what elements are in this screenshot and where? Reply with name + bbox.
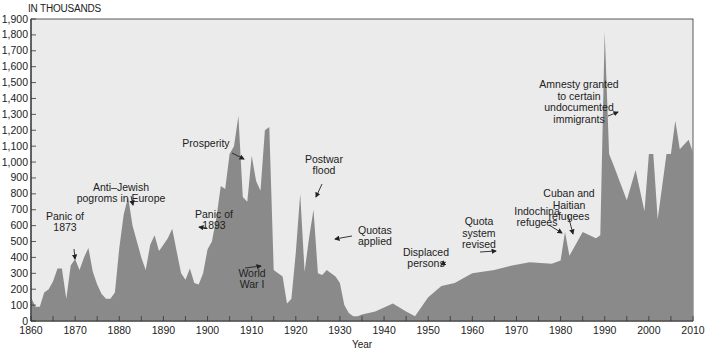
x-tick-label: 1980 [549,324,573,336]
annotation-text: 1873 [53,221,77,233]
annotation-text: 1893 [202,219,226,231]
x-tick-label: 1930 [328,324,352,336]
annotation-text: undocumented [544,101,614,113]
y-tick-label: 1,300 [2,108,28,120]
annotation-text: Prosperity [182,137,230,149]
x-axis-label: Year [352,339,373,350]
annotation-text: Displaced [403,246,449,258]
y-tick-label: 1,500 [2,76,28,88]
annotation-text: Amnesty granted [539,78,619,90]
annotation-text: World [238,267,265,279]
y-tick-label: 800 [10,187,28,199]
y-tick-label: 700 [10,203,28,215]
annotation-text: Postwar [305,153,343,165]
y-tick-label: 1,800 [2,28,28,40]
x-tick-label: 1960 [461,324,485,336]
y-axis: 01002003004005006007008009001,0001,1001,… [2,13,36,327]
x-tick-label: 1910 [240,324,264,336]
annotation-text: Quotas [358,224,392,236]
immigration-area-chart: 01002003004005006007008009001,0001,1001,… [0,0,710,354]
y-tick-label: 900 [10,171,28,183]
annotation-text: revised [462,238,496,250]
x-tick-label: 1870 [63,324,87,336]
annotation-text: flood [313,164,336,176]
annotation: WorldWar I [238,266,265,290]
x-tick-label: 1890 [152,324,176,336]
annotation-text: Panic of [46,210,84,222]
y-tick-label: 400 [10,251,28,263]
annotation-text: persons [407,257,444,269]
x-tick-label: 1940 [372,324,396,336]
annotation-text: Cuban and [543,187,595,199]
y-tick-label: 1,400 [2,92,28,104]
x-tick-label: 1970 [505,324,529,336]
annotation-text: immigrants [553,113,604,125]
y-tick-label: 1,900 [2,13,28,25]
annotation-text: pogroms in Europe [77,192,166,204]
x-tick-label: 1920 [284,324,308,336]
annotation: Quotasystemrevised [462,215,496,252]
y-tick-label: 1,100 [2,140,28,152]
annotation-text: Haitian [553,199,586,211]
annotation: Displacedpersons [403,246,449,270]
x-tick-label: 2010 [681,324,705,336]
annotation-text: Panic of [195,208,233,220]
y-tick-label: 1,200 [2,124,28,136]
x-tick-label: 2000 [637,324,661,336]
y-tick-label: 1,000 [2,156,28,168]
y-tick-label: 1,700 [2,44,28,56]
annotation-text: to certain [557,90,600,102]
x-tick-label: 1880 [108,324,132,336]
annotation-text: War I [240,278,265,290]
y-tick-label: 300 [10,267,28,279]
annotation-text: system [462,227,496,239]
y-tick-label: 1,600 [2,60,28,72]
x-tick-label: 1860 [19,324,43,336]
y-tick-label: 500 [10,235,28,247]
y-tick-label: 200 [10,283,28,295]
annotation-text: Quota [465,215,494,227]
annotation-text: Anti–Jewish [93,181,149,193]
x-tick-label: 1990 [593,324,617,336]
x-tick-label: 1950 [417,324,441,336]
annotation-text: applied [358,235,392,247]
y-tick-label: 100 [10,299,28,311]
x-tick-label: 1900 [196,324,220,336]
y-tick-label: 600 [10,219,28,231]
